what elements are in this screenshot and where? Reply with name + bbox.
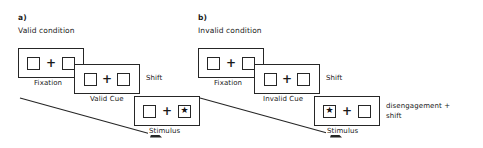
label-fixation-a: Fixation xyxy=(33,80,63,87)
label-fixation-b: Fixation xyxy=(213,80,243,87)
note-line-2: shift xyxy=(386,111,450,121)
fixation-cross: + xyxy=(282,73,292,85)
fixation-cross: + xyxy=(342,105,352,117)
panel-b-letter: b) xyxy=(198,14,207,22)
fixation-cross: + xyxy=(162,105,172,117)
fixation-cross: + xyxy=(102,73,112,85)
star-icon: ★ xyxy=(325,106,333,115)
right-placeholder-box xyxy=(297,73,310,86)
panel-invalid-condition: b) Invalid condition + Fixation + Shift … xyxy=(190,0,483,148)
right-placeholder-box xyxy=(358,105,371,118)
paradigm-figure: a) Valid condition + Fixation + Shift Va… xyxy=(0,0,483,148)
label-shift-b: Shift xyxy=(325,75,343,82)
left-placeholder-box xyxy=(84,73,97,86)
frame-stimulus-b: ★ + xyxy=(314,96,380,126)
label-stimulus-b: Stimulus xyxy=(326,128,359,135)
label-shift-a: Shift xyxy=(145,75,163,82)
label-cue-a: Valid Cue xyxy=(89,96,125,103)
frame-cue-a: + xyxy=(74,64,140,94)
panel-a-title: Valid condition xyxy=(18,27,75,35)
left-placeholder-box xyxy=(143,105,156,118)
label-cue-b: Invalid Cue xyxy=(262,96,304,103)
star-icon: ★ xyxy=(180,106,188,115)
target-box-with-star: ★ xyxy=(323,105,336,118)
label-stimulus-a: Stimulus xyxy=(148,128,181,135)
right-placeholder-box xyxy=(117,73,130,86)
left-placeholder-box xyxy=(264,73,277,86)
left-placeholder-box xyxy=(27,57,40,70)
left-placeholder-box xyxy=(207,57,220,70)
note-disengagement-shift: disengagement + shift xyxy=(386,101,450,121)
note-line-1: disengagement + xyxy=(386,101,450,111)
panel-a-letter: a) xyxy=(18,14,27,22)
fixation-cross: + xyxy=(226,57,236,69)
panel-b-title: Invalid condition xyxy=(198,27,262,35)
frame-cue-b: + xyxy=(254,64,320,94)
fixation-cross: + xyxy=(46,57,56,69)
